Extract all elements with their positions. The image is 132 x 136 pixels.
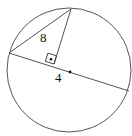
label-hypotenuse: 8 [40,30,47,45]
label-segment: 4 [55,70,62,85]
center-point [69,71,72,74]
right-angle-dot [50,58,53,61]
geometry-diagram: 8 4 [0,0,132,136]
circle [7,8,131,132]
